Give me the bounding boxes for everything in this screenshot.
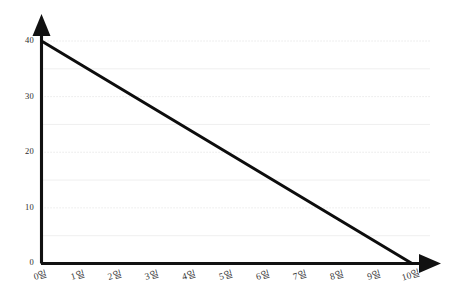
chart-background: [0, 0, 461, 299]
y-axis-tick-label: 0: [29, 257, 34, 267]
y-axis-tick-label: 40: [25, 35, 34, 45]
line-chart: 010203040 0일1일2일3일4일5일6일7일8일9일10일: [0, 0, 461, 299]
chart-container: 010203040 0일1일2일3일4일5일6일7일8일9일10일: [0, 0, 461, 299]
y-axis-tick-label: 30: [25, 91, 34, 101]
y-axis-tick-label: 10: [25, 202, 34, 212]
y-axis-tick-label: 20: [25, 146, 34, 156]
